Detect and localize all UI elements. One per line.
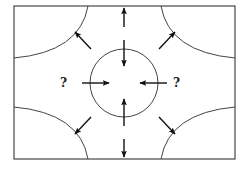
- outer-frame: [14, 6, 235, 159]
- left-question-mark: ?: [60, 76, 67, 90]
- arrow-bottom-right-outward: [159, 117, 175, 134]
- right-question-mark: ?: [173, 76, 180, 90]
- arrow-top-right-outward: [159, 32, 175, 49]
- arrow-bottom-left-outward: [75, 117, 91, 134]
- arrow-top-left-outward: [75, 32, 91, 49]
- top-right-arc: [161, 6, 235, 58]
- diagram-canvas: ? ?: [0, 0, 246, 169]
- bottom-right-arc: [161, 107, 235, 159]
- top-left-arc: [14, 6, 88, 58]
